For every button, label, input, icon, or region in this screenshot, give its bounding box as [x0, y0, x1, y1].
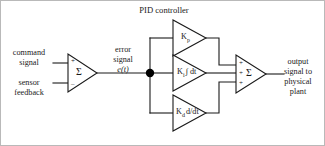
- output-label-line2: signal to: [284, 67, 312, 77]
- proportional-gain-subscript: p: [187, 37, 190, 43]
- error-signal-label-line2: signal: [113, 55, 133, 65]
- summing-left-plus-sign: +: [71, 56, 75, 66]
- summing-right-plus-sign-top: +: [239, 58, 243, 68]
- sensor-feedback-label-line2: feedback: [14, 88, 44, 98]
- diagram-title: PID controller: [139, 5, 188, 15]
- summing-right-plus-sign-bottom: +: [239, 78, 243, 88]
- integral-block-label: Ki∫ dt: [177, 67, 196, 80]
- diagram-canvas: [1, 1, 325, 146]
- error-signal-label-line1: error: [115, 45, 131, 55]
- summing-right-plus-sign-middle: +: [239, 68, 243, 78]
- summing-right-sigma-symbol: Σ: [246, 68, 252, 78]
- integral-gain-subscript: i: [183, 72, 185, 78]
- error-signal-label-expression: e(t): [117, 65, 128, 75]
- output-label-line4: plant: [290, 87, 306, 97]
- sensor-feedback-label-line1: sensor: [19, 78, 40, 88]
- summing-left-minus-sign: –: [71, 79, 75, 89]
- wire-derivative-to-sum: [206, 82, 236, 113]
- summing-left-sigma-symbol: Σ: [76, 67, 82, 77]
- pid-controller-diagram: PID controller command signal sensor fee…: [0, 0, 325, 146]
- output-label-line3: physical: [284, 77, 311, 87]
- command-signal-label-line1: command: [13, 48, 45, 58]
- wire-proportional-to-sum: [206, 38, 236, 65]
- derivative-block-label: Kdd/dt: [176, 107, 199, 120]
- derivative-gain-subscript: d: [182, 112, 185, 118]
- command-signal-label-line2: signal: [19, 58, 39, 68]
- proportional-block-label: Kp: [181, 32, 190, 45]
- derivative-operator-symbol: d/dt: [186, 107, 199, 116]
- output-label-line1: output: [288, 57, 309, 67]
- integral-operator-symbol: ∫ dt: [186, 67, 197, 76]
- branch-node-dot: [146, 69, 154, 77]
